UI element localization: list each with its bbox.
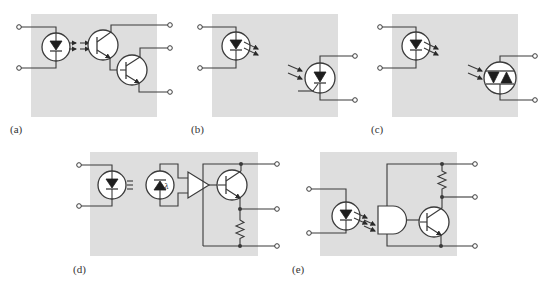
junction-dot <box>239 162 243 166</box>
input-terminal[interactable] <box>378 66 383 71</box>
output-terminal[interactable] <box>353 98 358 103</box>
panel-a: (a) <box>10 14 172 136</box>
input-terminal[interactable] <box>17 25 22 30</box>
output-terminal[interactable] <box>275 244 280 249</box>
input-terminal[interactable] <box>77 163 82 168</box>
junction-dot <box>238 207 242 211</box>
logic-gate-icon <box>378 206 407 234</box>
junction-dot <box>440 195 444 199</box>
panel-d: λ (d) <box>73 152 279 276</box>
input-terminal[interactable] <box>17 66 22 71</box>
input-terminal[interactable] <box>378 25 383 30</box>
panel-label: (a) <box>10 123 23 136</box>
optocoupler-figure: (a) (b) <box>0 0 551 290</box>
output-terminal[interactable] <box>473 162 478 167</box>
output-terminal[interactable] <box>533 98 538 103</box>
input-terminal[interactable] <box>198 25 203 30</box>
panel-label: (e) <box>292 263 305 276</box>
input-terminal[interactable] <box>77 204 82 209</box>
output-terminal[interactable] <box>473 244 478 249</box>
output-terminal[interactable] <box>473 195 478 200</box>
junction-dot <box>440 162 444 166</box>
panel-label: (b) <box>191 123 204 136</box>
output-terminal[interactable] <box>168 46 173 51</box>
panel-b: (b) <box>191 14 357 136</box>
output-terminal[interactable] <box>168 90 173 95</box>
output-terminal[interactable] <box>168 23 173 28</box>
panel-d-background <box>90 152 258 256</box>
output-terminal[interactable] <box>275 207 280 212</box>
junction-dot <box>238 244 242 248</box>
lambda-symbol: λ <box>163 182 169 191</box>
junction-dot <box>439 244 443 248</box>
panel-c: (c) <box>371 14 537 136</box>
output-terminal[interactable] <box>533 54 538 59</box>
panel-label: (c) <box>371 123 384 136</box>
input-terminal[interactable] <box>307 231 312 236</box>
panel-label: (d) <box>73 263 86 276</box>
input-terminal[interactable] <box>198 66 203 71</box>
input-terminal[interactable] <box>307 187 312 192</box>
output-terminal[interactable] <box>275 162 280 167</box>
panel-e: (e) <box>292 152 477 276</box>
output-terminal[interactable] <box>353 54 358 59</box>
